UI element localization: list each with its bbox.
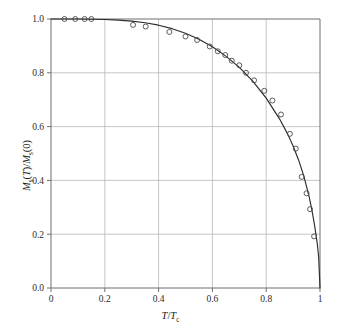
grid-lines bbox=[51, 19, 320, 288]
x-tick-label: 1 bbox=[318, 294, 323, 304]
theory-curve bbox=[51, 19, 320, 288]
y-axis-title-text: Ms(T)/Ms(0) bbox=[21, 140, 32, 191]
x-axis-title: T/Tc bbox=[0, 305, 341, 324]
plot-frame bbox=[51, 19, 320, 288]
x-tick-label: 0 bbox=[49, 294, 54, 304]
tick-labels: 00.20.40.60.810.00.20.40.60.81.0 bbox=[32, 14, 323, 304]
y-tick-label: 0.0 bbox=[32, 283, 44, 293]
magnetization-plot: 00.20.40.60.810.00.20.40.60.81.0 bbox=[0, 0, 341, 331]
x-tick-label: 0.6 bbox=[206, 294, 218, 304]
tick-marks bbox=[47, 19, 320, 292]
x-tick-label: 0.4 bbox=[153, 294, 165, 304]
y-tick-label: 0.6 bbox=[32, 122, 44, 132]
y-tick-label: 0.2 bbox=[32, 230, 44, 240]
y-tick-label: 0.8 bbox=[32, 68, 44, 78]
data-points bbox=[62, 17, 317, 239]
x-tick-label: 0.8 bbox=[260, 294, 272, 304]
y-tick-label: 1.0 bbox=[32, 14, 44, 24]
x-tick-label: 0.2 bbox=[99, 294, 111, 304]
chart-figure: 00.20.40.60.810.00.20.40.60.81.0 T/Tc Ms… bbox=[0, 0, 341, 331]
y-axis-title: Ms(T)/Ms(0) bbox=[16, 0, 32, 331]
x-axis-title-text: T/Tc bbox=[162, 310, 180, 321]
